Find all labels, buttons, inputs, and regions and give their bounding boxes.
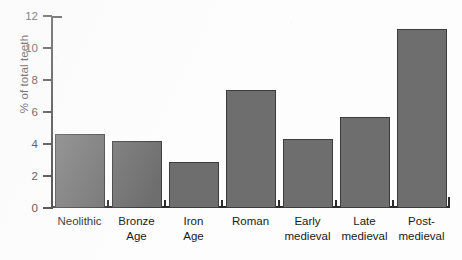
y-axis-tick-label: 0 [8, 202, 38, 214]
x-axis-tick [392, 200, 394, 208]
x-axis-category-label-line: Early [279, 214, 336, 229]
x-axis-category-label: Post-medieval [393, 214, 450, 244]
y-axis-tick-label: 12 [8, 10, 38, 22]
x-axis-category-label-line: Late [336, 214, 393, 229]
x-axis-tick [335, 200, 337, 208]
x-axis-category-label-line: Post- [393, 214, 450, 229]
x-axis-tick [278, 200, 280, 208]
x-axis-category-label-line: Age [108, 229, 165, 244]
x-axis-category-label: BronzeAge [108, 214, 165, 244]
y-axis-tick [43, 143, 52, 145]
x-axis-category-label: IronAge [165, 214, 222, 244]
x-axis-category-label: Latemedieval [336, 214, 393, 244]
x-axis-category-label-line: medieval [279, 229, 336, 244]
y-axis-tick-labels: 024681012 [8, 16, 38, 208]
bar [55, 134, 105, 208]
x-axis-category-label-line: Age [165, 229, 222, 244]
y-axis-tick-label: 8 [8, 74, 38, 86]
y-axis-tick [43, 207, 52, 209]
y-axis-tick-label: 10 [8, 42, 38, 54]
x-axis-category-label-line: Bronze [108, 214, 165, 229]
x-axis-category-label-line: medieval [336, 229, 393, 244]
y-axis-tick-label: 2 [8, 170, 38, 182]
x-axis-category-label-line: Roman [222, 214, 279, 229]
bar [397, 29, 447, 208]
bar [169, 162, 219, 208]
y-axis-tick [43, 79, 52, 81]
y-axis-tick [43, 47, 52, 49]
x-axis-tick [107, 200, 109, 208]
x-axis-category-label-line: medieval [393, 229, 450, 244]
y-axis-tick [43, 175, 52, 177]
bar [226, 90, 276, 208]
x-axis-category-label-line: Iron [165, 214, 222, 229]
x-axis-category-label: Neolithic [51, 214, 108, 229]
x-axis-tick [164, 200, 166, 208]
x-axis-category-label: Earlymedieval [279, 214, 336, 244]
x-axis-category-label-line: Neolithic [51, 214, 108, 229]
y-axis-tick [43, 111, 52, 113]
y-axis-tick [43, 15, 52, 17]
bar-chart-figure: % of total teeth 024681012 NeolithicBron… [0, 0, 462, 260]
bar [112, 141, 162, 208]
x-axis-category-labels: NeolithicBronzeAgeIronAgeRomanEarlymedie… [51, 214, 450, 258]
y-axis-top-cap [51, 16, 62, 18]
y-axis-tick-label: 4 [8, 138, 38, 150]
bar [283, 139, 333, 208]
x-axis-category-label: Roman [222, 214, 279, 229]
plot-area [51, 16, 450, 208]
x-axis-tick [221, 200, 223, 208]
bar [340, 117, 390, 208]
y-axis-tick-label: 6 [8, 106, 38, 118]
x-axis-right-cap [448, 197, 450, 208]
